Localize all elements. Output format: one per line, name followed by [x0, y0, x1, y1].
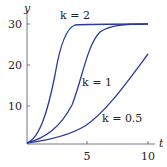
curve-k05 [27, 54, 148, 143]
logistic-chart: 5 10 10 20 30 t y k = 2 k = 1 k = 0.5 [0, 0, 167, 167]
y-tick-30: 30 [8, 18, 22, 31]
y-tick-10: 10 [8, 100, 22, 113]
x-tick-10: 10 [141, 150, 155, 163]
y-axis-label: y [23, 2, 31, 15]
x-tick-5: 5 [84, 150, 91, 163]
x-axis-label: t [159, 137, 164, 150]
label-k1: k = 1 [82, 76, 112, 89]
label-k2: k = 2 [60, 9, 90, 22]
label-k05: k = 0.5 [102, 112, 142, 125]
y-tick-20: 20 [8, 59, 22, 72]
